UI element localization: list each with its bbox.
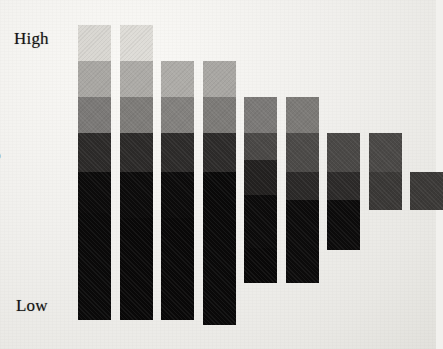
bar-segment bbox=[286, 133, 319, 172]
bar-segment bbox=[327, 172, 360, 200]
bar-segment bbox=[120, 25, 153, 61]
bar-segment bbox=[78, 61, 111, 97]
bar-segment bbox=[244, 97, 277, 133]
bar-segment bbox=[78, 133, 111, 172]
bar-segment bbox=[120, 97, 153, 133]
bar-segment bbox=[78, 97, 111, 133]
bar-segment bbox=[120, 218, 153, 320]
stacked-bar bbox=[78, 25, 111, 320]
bar-segment bbox=[161, 61, 194, 97]
stacked-bar bbox=[327, 133, 360, 250]
bar-segment bbox=[161, 133, 194, 172]
stacked-bar bbox=[161, 61, 194, 320]
y-axis-tick-high: High bbox=[14, 29, 49, 49]
bar-segment bbox=[78, 213, 111, 320]
bar-segment bbox=[244, 160, 277, 195]
bar-segment bbox=[327, 200, 360, 250]
bar-segment bbox=[244, 133, 277, 160]
bar-segment bbox=[120, 61, 153, 97]
stacked-bar bbox=[410, 172, 443, 210]
bar-segment bbox=[120, 172, 153, 218]
bar-segment bbox=[203, 133, 236, 172]
bar-segment bbox=[286, 172, 319, 200]
stacked-bar bbox=[120, 25, 153, 320]
bar-segment bbox=[327, 133, 360, 172]
bar-segment bbox=[161, 218, 194, 320]
bar-segment bbox=[161, 97, 194, 133]
bar-segment bbox=[286, 97, 319, 133]
bar-segment bbox=[369, 133, 402, 172]
bar-segment bbox=[161, 172, 194, 218]
stacked-bar bbox=[244, 97, 277, 283]
bar-segment bbox=[78, 172, 111, 213]
bar-segment bbox=[286, 200, 319, 283]
bar-segment bbox=[410, 172, 443, 210]
bar-segment bbox=[203, 61, 236, 97]
y-axis-tick-low: Low bbox=[16, 296, 48, 316]
bar-segment bbox=[369, 172, 402, 210]
stacked-bar bbox=[203, 61, 236, 325]
stacked-bar bbox=[286, 97, 319, 283]
bar-segment bbox=[203, 172, 236, 325]
bar-segment bbox=[244, 195, 277, 248]
bar-segment bbox=[120, 133, 153, 172]
bar-segment bbox=[78, 25, 111, 61]
bar-segment bbox=[244, 248, 277, 283]
stacked-bar bbox=[369, 133, 402, 210]
bar-segment bbox=[203, 97, 236, 133]
